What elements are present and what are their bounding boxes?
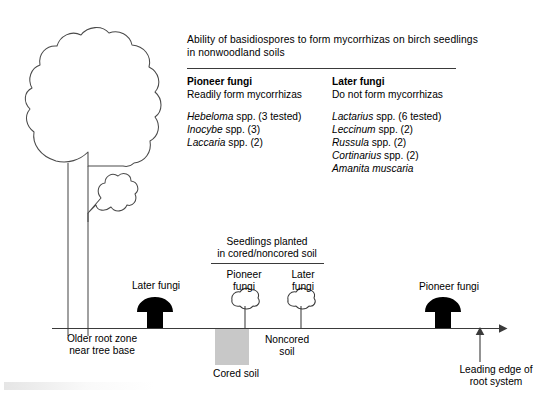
list-item: Leccinum spp. (2) — [332, 124, 522, 137]
label-older-root-line2: near tree base — [44, 345, 160, 357]
species-rest: spp. (2) — [378, 124, 413, 135]
column-header-later: Later fungi Do not form mycorrhizas — [332, 76, 517, 101]
label-older-root-line1: Older root zone — [44, 333, 160, 345]
seedlings-divider-rule — [211, 263, 324, 264]
species-genus: Leccinum — [332, 124, 376, 135]
column-subheading-later: Do not form mycorrhizas — [332, 89, 517, 102]
label-noncored-line2: soil — [251, 346, 323, 358]
column-heading-pioneer: Pioneer fungi — [187, 76, 332, 89]
species-rest: spp. (3) — [226, 124, 261, 135]
label-seedlings-line1: Seedlings planted — [197, 236, 337, 248]
list-item: Amanita muscaria — [332, 163, 522, 176]
column-subheading-pioneer: Readily form mycorrhizas — [187, 89, 332, 102]
list-item: Russula spp. (2) — [332, 137, 522, 150]
seedling-pioneer-cored — [232, 288, 259, 328]
mushroom-pioneer-fungi-right — [425, 297, 461, 328]
label-cored-soil: Cored soil — [190, 368, 282, 380]
species-genus: Lactarius — [332, 111, 373, 122]
species-genus: Russula — [332, 137, 369, 148]
label-leading-edge-line1: Leading edge of — [448, 364, 544, 376]
species-rest: spp. (2) — [384, 150, 419, 161]
panel-title-line1: Ability of basidiospores to form mycorrh… — [187, 33, 517, 46]
label-seedlings-line2: in cored/noncored soil — [197, 248, 337, 260]
label-later-seedling-line1: Later — [273, 269, 333, 281]
column-header-pioneer: Pioneer fungi Readily form mycorrhizas — [187, 76, 332, 101]
list-item: Inocybe spp. (3) — [187, 124, 335, 137]
label-seedlings-planted: Seedlings planted in cored/noncored soil — [197, 236, 337, 261]
panel-title-line2: in nonwoodland soils — [187, 46, 517, 59]
cropped-caption-artifact — [4, 382, 154, 390]
column-heading-later: Later fungi — [332, 76, 517, 89]
species-rest: spp. (6 tested) — [376, 111, 441, 122]
label-later-fungi-left: Later fungi — [106, 280, 206, 292]
list-item: Hebeloma spp. (3 tested) — [187, 111, 335, 124]
species-list-pioneer: Hebeloma spp. (3 tested) Inocybe spp. (3… — [187, 111, 335, 150]
label-pioneer-fungi-right: Pioneer fungi — [396, 281, 502, 293]
panel-divider-rule — [187, 68, 456, 69]
label-older-root-zone: Older root zone near tree base — [44, 333, 160, 358]
list-item: Lactarius spp. (6 tested) — [332, 111, 522, 124]
label-pioneer-seedling-line2: fungi — [213, 281, 275, 293]
label-later-seedling-line2: fungi — [273, 281, 333, 293]
diagram-canvas: Ability of basidiospores to form mycorrh… — [0, 0, 548, 398]
seedling-later-noncored — [288, 288, 315, 328]
label-later-fungi-seedling: Later fungi — [273, 269, 333, 294]
species-genus: Laccaria — [187, 137, 226, 148]
label-leading-edge-line2: root system — [448, 376, 544, 388]
species-genus: Hebeloma — [187, 111, 233, 122]
species-rest: spp. (3 tested) — [236, 111, 301, 122]
label-noncored-line1: Noncored — [251, 334, 323, 346]
species-rest: spp. (2) — [228, 137, 263, 148]
species-genus: Inocybe — [187, 124, 223, 135]
info-panel: Ability of basidiospores to form mycorrh… — [187, 33, 517, 59]
leading-edge-arrow — [476, 327, 485, 362]
label-pioneer-fungi-seedling: Pioneer fungi — [213, 269, 275, 294]
species-rest: spp. (2) — [372, 137, 407, 148]
species-genus: Cortinarius — [332, 150, 381, 161]
label-pioneer-seedling-line1: Pioneer — [213, 269, 275, 281]
list-item: Laccaria spp. (2) — [187, 137, 335, 150]
label-noncored-soil: Noncored soil — [251, 334, 323, 359]
cored-soil-block — [215, 329, 249, 365]
list-item: Cortinarius spp. (2) — [332, 150, 522, 163]
label-leading-edge: Leading edge of root system — [448, 364, 544, 389]
species-list-later: Lactarius spp. (6 tested) Leccinum spp. … — [332, 111, 522, 176]
species-genus: Amanita muscaria — [332, 163, 414, 174]
